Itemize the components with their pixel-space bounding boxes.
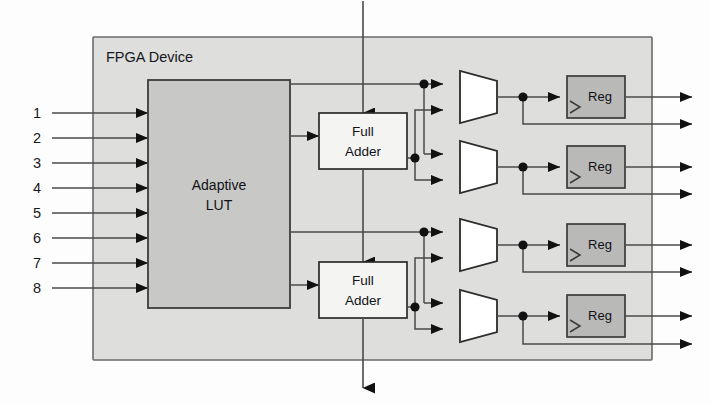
junction-dot-mux3-out — [518, 240, 527, 249]
junction-dot-mux4-out — [518, 311, 527, 320]
mux-4-body[interactable] — [460, 290, 497, 342]
register-4-label: Reg — [588, 308, 612, 323]
register-1[interactable]: Reg — [567, 76, 625, 118]
register-1-label: Reg — [588, 89, 612, 104]
full-adder-1-label-line2: Adder — [345, 144, 382, 159]
full-adder-2-label-line1: Full — [352, 273, 374, 288]
adaptive-lut-label-line2: LUT — [206, 197, 233, 213]
mux-1-body[interactable] — [460, 71, 497, 123]
mux-4[interactable] — [460, 290, 497, 342]
full-adder-1[interactable]: Full Adder — [319, 113, 407, 169]
junction-dot-mux1-out — [518, 92, 527, 101]
output-wires-group — [652, 97, 692, 344]
fpga-block-diagram: FPGA Device 1 2 3 4 5 6 7 8 Adaptive LUT — [0, 0, 710, 403]
full-adder-2-body[interactable] — [319, 262, 407, 318]
adaptive-lut-label-line1: Adaptive — [192, 177, 247, 193]
mux-3-body[interactable] — [460, 219, 497, 271]
register-2[interactable]: Reg — [567, 146, 625, 188]
input-label-5: 5 — [33, 205, 41, 221]
junction-dot-lut-out1 — [419, 79, 428, 88]
register-3[interactable]: Reg — [567, 224, 625, 266]
input-label-3: 3 — [33, 155, 41, 171]
junction-dot-adder1-sum — [410, 153, 419, 162]
mux-3[interactable] — [460, 219, 497, 271]
input-label-7: 7 — [33, 255, 41, 271]
register-3-label: Reg — [588, 237, 612, 252]
fpga-diagram-canvas: FPGA Device 1 2 3 4 5 6 7 8 Adaptive LUT — [0, 0, 710, 403]
input-label-6: 6 — [33, 230, 41, 246]
mux-2-body[interactable] — [460, 141, 497, 193]
input-labels-group: 1 2 3 4 5 6 7 8 — [33, 105, 41, 296]
full-adder-2[interactable]: Full Adder — [319, 262, 407, 318]
full-adder-1-label-line1: Full — [352, 124, 374, 139]
input-label-8: 8 — [33, 280, 41, 296]
fpga-device-label: FPGA Device — [106, 49, 193, 65]
junction-dot-mux2-out — [518, 162, 527, 171]
adaptive-lut-body[interactable] — [148, 80, 290, 308]
input-label-1: 1 — [33, 105, 41, 121]
full-adder-1-body[interactable] — [319, 113, 407, 169]
junction-dot-lut-out3 — [419, 227, 428, 236]
register-2-label: Reg — [588, 159, 612, 174]
mux-1[interactable] — [460, 71, 497, 123]
junction-dot-adder2-sum — [410, 302, 419, 311]
input-label-4: 4 — [33, 180, 41, 196]
register-4[interactable]: Reg — [567, 295, 625, 337]
input-label-2: 2 — [33, 130, 41, 146]
full-adder-2-label-line2: Adder — [345, 293, 382, 308]
mux-2[interactable] — [460, 141, 497, 193]
adaptive-lut-block[interactable]: Adaptive LUT — [148, 80, 290, 308]
